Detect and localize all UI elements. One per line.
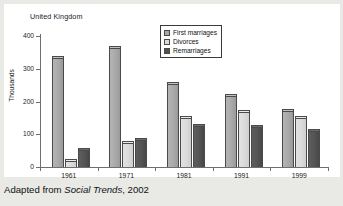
- bar-top-face: [238, 110, 250, 113]
- caption-source-title: Social Trends: [64, 184, 122, 195]
- y-axis-tick-label: 400: [10, 32, 34, 39]
- legend-item-remarriages: Remarriages: [164, 46, 217, 55]
- legend-swatch-icon: [164, 39, 170, 45]
- y-axis-tick-label: 100: [10, 131, 34, 138]
- bar-top-face: [122, 141, 134, 144]
- bar-1999-divorces: [295, 116, 307, 167]
- y-axis-tick-label: 300: [10, 65, 34, 72]
- x-axis-line: [40, 167, 328, 168]
- y-axis-tick: [36, 134, 41, 135]
- bar-1971-first-marriages: [109, 46, 121, 167]
- bar-top-face: [308, 129, 320, 132]
- bar-1981-divorces: [180, 116, 192, 167]
- caption-prefix: Adapted from: [4, 184, 64, 195]
- bar-1981-remarriages: [193, 124, 205, 167]
- bar-1961-first-marriages: [52, 56, 64, 167]
- bar-1999-first-marriages: [282, 109, 294, 167]
- bar-1961-remarriages: [78, 148, 90, 167]
- bar-top-face: [65, 159, 77, 162]
- x-axis-tick: [155, 167, 156, 171]
- bar-top-face: [251, 125, 263, 128]
- y-axis-tick-label: 200: [10, 98, 34, 105]
- x-axis-tick-label: 1971: [119, 172, 134, 179]
- bar-top-face: [109, 46, 121, 49]
- legend-item-first-marriages: First marriages: [164, 28, 217, 37]
- bar-1991-divorces: [238, 110, 250, 167]
- y-axis-labels: 4003002001000: [4, 4, 34, 206]
- bar-top-face: [282, 109, 294, 112]
- x-axis-tick: [270, 167, 271, 171]
- bar-top-face: [225, 94, 237, 97]
- bar-1999-remarriages: [308, 129, 320, 167]
- y-axis-tick: [36, 36, 41, 37]
- bar-top-face: [193, 124, 205, 127]
- page-title: United Kingdom: [30, 12, 83, 21]
- legend-item-divorces: Divorces: [164, 37, 217, 46]
- x-axis-tick: [40, 167, 41, 171]
- chart-panel: United Kingdom Thousands 4003002001000 F…: [4, 4, 340, 177]
- caption-suffix: , 2002: [122, 184, 149, 195]
- x-axis-tick-label: 1961: [61, 172, 76, 179]
- bar-top-face: [295, 116, 307, 119]
- bar-top-face: [180, 116, 192, 119]
- x-axis-tick: [328, 167, 329, 171]
- legend-item-label: Remarriages: [173, 47, 211, 54]
- bar-1971-remarriages: [135, 138, 147, 167]
- y-axis-tick-label: 0: [10, 163, 34, 170]
- legend-swatch-icon: [164, 48, 170, 54]
- chart-legend: First marriagesDivorcesRemarriages: [160, 25, 222, 58]
- legend-swatch-icon: [164, 30, 170, 36]
- x-axis-tick-label: 1999: [292, 172, 307, 179]
- x-axis-tick: [213, 167, 214, 171]
- bar-1971-divorces: [122, 141, 134, 167]
- bar-1981-first-marriages: [167, 82, 179, 167]
- bar-top-face: [52, 56, 64, 59]
- source-caption: Adapted from Social Trends, 2002: [4, 184, 149, 195]
- bar-1991-remarriages: [251, 125, 263, 167]
- bar-top-face: [78, 148, 90, 151]
- bar-top-face: [167, 82, 179, 85]
- bar-1991-first-marriages: [225, 94, 237, 167]
- bar-top-face: [135, 138, 147, 141]
- bar-1961-divorces: [65, 159, 77, 167]
- x-axis-tick-label: 1981: [176, 172, 191, 179]
- x-axis-tick-label: 1991: [234, 172, 249, 179]
- legend-item-label: Divorces: [173, 38, 199, 45]
- x-axis-tick: [98, 167, 99, 171]
- y-axis-tick: [36, 69, 41, 70]
- legend-item-label: First marriages: [173, 29, 217, 36]
- y-axis-tick: [36, 102, 41, 103]
